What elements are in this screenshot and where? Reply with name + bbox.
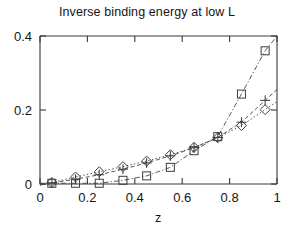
data-point-plus	[236, 117, 246, 127]
y-axis-ticks	[40, 36, 277, 184]
x-tick-label: 0	[36, 190, 43, 205]
axis-left-bottom	[40, 36, 277, 184]
series-markers-group	[47, 47, 270, 188]
y-tick-label: 0.2	[14, 103, 32, 118]
chart-figure: Inverse binding energy at low L 00.20.4 …	[0, 0, 294, 227]
data-point-plus	[165, 151, 175, 161]
axis-top-right	[40, 36, 277, 184]
data-point-diamond	[260, 105, 270, 115]
y-axis-tick-labels: 00.20.4	[14, 29, 32, 192]
x-axis-tick-labels: 00.20.40.60.81	[36, 190, 280, 205]
x-tick-label: 0.6	[173, 190, 191, 205]
x-tick-label: 1	[273, 190, 280, 205]
series-lines-group	[40, 36, 277, 185]
plot-frame	[40, 36, 277, 184]
y-tick-label: 0.4	[14, 29, 32, 44]
x-axis-ticks	[40, 36, 277, 184]
series-line-square	[40, 36, 277, 183]
data-point-square	[119, 176, 127, 184]
series-line-plus	[40, 89, 277, 184]
y-tick-label: 0	[25, 177, 32, 192]
x-tick-label: 0.8	[221, 190, 239, 205]
x-tick-label: 0.2	[78, 190, 96, 205]
data-point-square	[166, 163, 174, 171]
x-tick-label: 0.4	[126, 190, 144, 205]
series-line-diamond	[40, 102, 277, 186]
plot-canvas: 00.20.4 00.20.40.60.81 z	[0, 0, 294, 227]
x-axis-title: z	[155, 211, 161, 225]
